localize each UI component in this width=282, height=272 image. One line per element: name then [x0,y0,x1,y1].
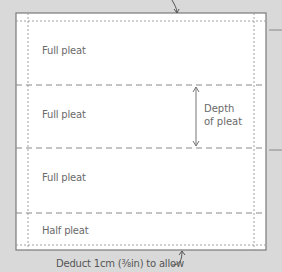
section-label-2: Full pleat [42,109,86,120]
section-label-3: Full pleat [42,172,86,183]
top-pointer-arrow-icon [172,0,179,13]
depth-label: Depth of pleat [204,102,242,128]
section-label-4: Half pleat [42,225,88,236]
depth-label-line1: Depth [204,102,242,115]
section-label-1: Full pleat [42,45,86,56]
depth-label-line2: of pleat [204,115,242,128]
bottom-caption: Deduct 1cm (⅜in) to allow [56,258,184,269]
